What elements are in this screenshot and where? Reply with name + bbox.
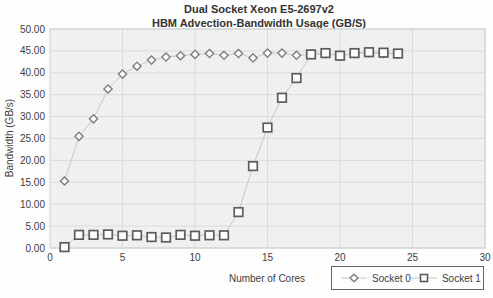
legend-item-socket-0: Socket 0	[341, 273, 411, 284]
legend-item-socket-1: Socket 1	[411, 273, 481, 284]
x-tick-labels: 051015202530	[47, 252, 491, 263]
svg-text:0.00: 0.00	[26, 243, 46, 254]
svg-text:45.00: 45.00	[20, 45, 45, 56]
svg-text:30.00: 30.00	[20, 111, 45, 122]
svg-text:35.00: 35.00	[20, 89, 45, 100]
svg-text:5.00: 5.00	[26, 221, 46, 232]
plot-area: 0.005.0010.0015.0020.0025.0030.0035.0040…	[0, 0, 493, 298]
svg-text:20: 20	[334, 252, 346, 263]
svg-text:25.00: 25.00	[20, 133, 45, 144]
svg-text:10: 10	[189, 252, 201, 263]
legend-label-socket-0: Socket 0	[372, 273, 411, 284]
svg-text:25: 25	[407, 252, 419, 263]
y-tick-labels: 0.005.0010.0015.0020.0025.0030.0035.0040…	[20, 24, 45, 254]
y-axis-title: Bandwidth (GB/s)	[4, 99, 15, 177]
svg-text:15.00: 15.00	[20, 177, 45, 188]
legend: Socket 0 Socket 1	[331, 266, 484, 290]
svg-text:10.00: 10.00	[20, 199, 45, 210]
svg-text:0: 0	[47, 252, 53, 263]
svg-text:20.00: 20.00	[20, 155, 45, 166]
svg-text:50.00: 50.00	[20, 24, 45, 35]
svg-text:5: 5	[120, 252, 126, 263]
diamond-marker-icon	[341, 273, 367, 283]
svg-text:40.00: 40.00	[20, 67, 45, 78]
x-axis-title: Number of Cores	[229, 273, 305, 284]
svg-text:30: 30	[479, 252, 491, 263]
legend-label-socket-1: Socket 1	[442, 273, 481, 284]
svg-text:15: 15	[262, 252, 274, 263]
square-marker-icon	[411, 273, 437, 283]
